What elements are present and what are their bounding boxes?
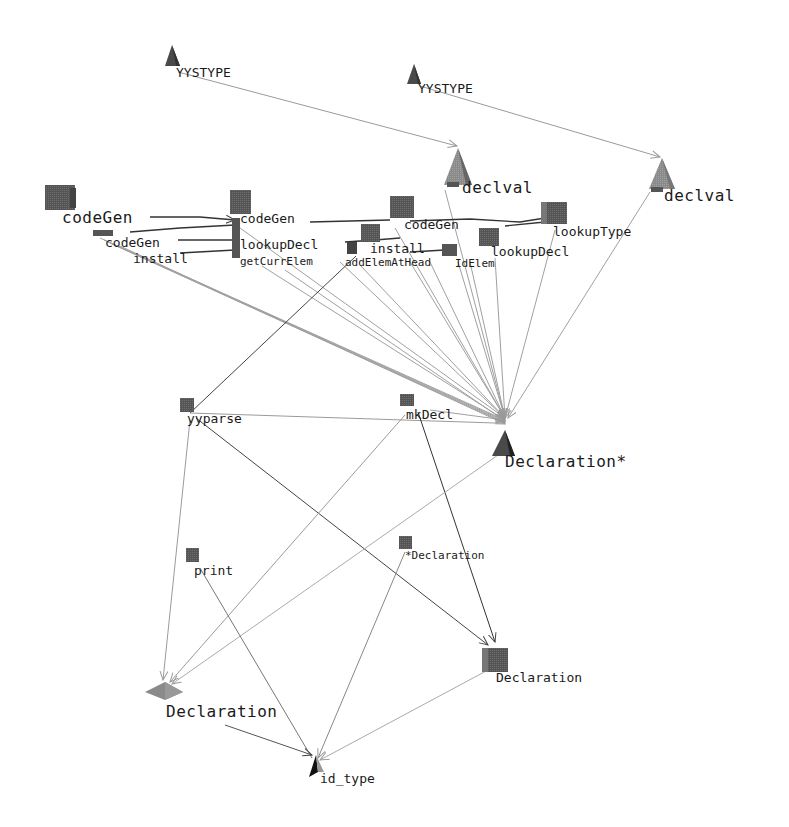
label-codegen-small: codeGen bbox=[105, 236, 160, 249]
node-addelemathead-icon[interactable] bbox=[347, 242, 357, 254]
label-yyparse: yyparse bbox=[187, 412, 242, 425]
label-id-type: id_type bbox=[320, 772, 375, 785]
label-declaration-ptr: Declaration* bbox=[505, 454, 627, 470]
label-mkdecl: mkDecl bbox=[406, 408, 453, 421]
label-install-1: install bbox=[133, 252, 188, 265]
label-declval-2: declval bbox=[664, 188, 735, 204]
label-declaration-star: *Declaration bbox=[405, 550, 484, 561]
label-codegen-3: codeGen bbox=[404, 218, 459, 231]
label-addelemathead: addElemAtHead bbox=[345, 257, 431, 268]
node-install-2-icon[interactable] bbox=[361, 224, 380, 242]
label-idelem: IdElem bbox=[455, 258, 495, 269]
label-lookuptype: lookupType bbox=[553, 225, 631, 238]
node-declaration-star-icon[interactable] bbox=[399, 536, 412, 549]
label-declaration-box: Declaration bbox=[496, 671, 582, 684]
node-mkdecl-icon[interactable] bbox=[400, 394, 414, 406]
node-lookuptype-icon[interactable] bbox=[541, 202, 567, 224]
node-codegen-3-icon[interactable] bbox=[390, 196, 414, 218]
label-declval-1: declval bbox=[462, 180, 533, 196]
node-yystype-1-icon[interactable] bbox=[165, 45, 180, 66]
edges-lower bbox=[200, 552, 488, 760]
node-declaration-box-icon[interactable] bbox=[482, 648, 508, 672]
label-getcurrelem: getCurrElem bbox=[240, 256, 313, 267]
node-print-icon[interactable] bbox=[186, 548, 199, 562]
label-codegen-2: codeGen bbox=[240, 212, 295, 225]
label-yystype-1: YYSTYPE bbox=[176, 66, 231, 79]
label-install-2: install bbox=[370, 242, 425, 255]
label-declaration-diamond: Declaration bbox=[166, 704, 277, 720]
label-yystype-2: YYSTYPE bbox=[418, 82, 473, 95]
call-graph-canvas bbox=[0, 0, 789, 827]
node-codegen-1-icon[interactable] bbox=[45, 185, 76, 210]
label-codegen-1: codeGen bbox=[62, 210, 133, 226]
node-idelem-icon[interactable] bbox=[442, 244, 457, 256]
node-declaration-diamond-icon[interactable] bbox=[145, 682, 183, 700]
edges-mkdecl bbox=[170, 412, 495, 682]
label-lookupdecl-1: lookupDecl bbox=[240, 238, 318, 251]
node-yyparse-icon[interactable] bbox=[180, 398, 194, 412]
label-print: print bbox=[194, 564, 233, 577]
label-lookupdecl-2: lookupDecl bbox=[491, 245, 569, 258]
